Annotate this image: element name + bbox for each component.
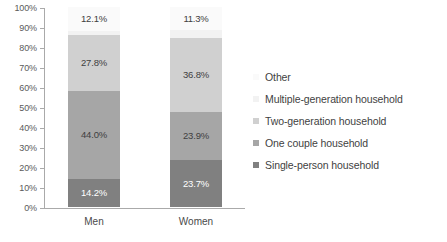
legend-item-label: One couple household xyxy=(265,137,368,149)
y-axis-tick-label: 10% xyxy=(19,183,37,193)
legend: OtherMultiple-generation householdTwo-ge… xyxy=(253,66,443,176)
tick-mark xyxy=(40,88,44,89)
legend-color-swatch xyxy=(253,140,259,146)
bar-women[interactable]: 23.7%23.9%36.8%11.3% xyxy=(170,7,222,207)
y-axis-tick-label: 100% xyxy=(14,3,37,13)
bar-segment[interactable]: 36.8% xyxy=(170,38,222,112)
legend-item-label: Multiple-generation household xyxy=(265,93,403,105)
bar-segment-value-label: 12.1% xyxy=(81,14,107,24)
bar-segment-value-label: 14.2% xyxy=(81,188,107,198)
y-axis-tick-label: 20% xyxy=(19,163,37,173)
legend-item[interactable]: Single-person household xyxy=(253,154,443,176)
bar-segment[interactable]: 11.3% xyxy=(170,7,222,30)
bar-segment[interactable] xyxy=(170,30,222,39)
bar-segment-value-label: 36.8% xyxy=(183,70,209,80)
bar-segment-value-label: 44.0% xyxy=(81,130,107,140)
bar-segment[interactable]: 23.7% xyxy=(170,160,222,207)
tick-mark xyxy=(40,108,44,109)
legend-item-label: Single-person household xyxy=(265,159,379,171)
legend-color-swatch xyxy=(253,118,259,124)
legend-color-swatch xyxy=(253,74,259,80)
tick-mark xyxy=(40,148,44,149)
y-axis-tick-label: 0% xyxy=(24,203,37,213)
x-axis-label-women: Women xyxy=(170,216,222,227)
y-axis-tick-label: 60% xyxy=(19,83,37,93)
legend-item[interactable]: Other xyxy=(253,66,443,88)
bar-segment[interactable]: 12.1% xyxy=(68,7,120,31)
bar-segment-value-label: 11.3% xyxy=(183,14,208,24)
bar-segment[interactable]: 23.9% xyxy=(170,112,222,160)
plot-area: 0%10%20%30%40%50%60%70%80%90%100% 14.2%4… xyxy=(44,8,245,208)
y-axis-tick-label: 80% xyxy=(19,43,37,53)
x-axis-line xyxy=(44,208,245,209)
bar-segment-value-label: 23.7% xyxy=(183,179,209,189)
bar-segment[interactable]: 14.2% xyxy=(68,179,120,207)
legend-item[interactable]: One couple household xyxy=(253,132,443,154)
tick-mark xyxy=(40,168,44,169)
y-axis-tick-label: 70% xyxy=(19,63,37,73)
y-axis-tick-label: 40% xyxy=(19,123,37,133)
y-axis-tick-label: 30% xyxy=(19,143,37,153)
y-axis-tick-label: 90% xyxy=(19,23,37,33)
legend-item[interactable]: Multiple-generation household xyxy=(253,88,443,110)
legend-item-label: Other xyxy=(265,71,291,83)
bar-segment[interactable] xyxy=(68,31,120,35)
legend-color-swatch xyxy=(253,162,259,168)
tick-mark xyxy=(40,68,44,69)
legend-color-swatch xyxy=(253,96,259,102)
bar-men[interactable]: 14.2%44.0%27.8%12.1% xyxy=(68,7,120,207)
y-axis-tick-label: 50% xyxy=(19,103,37,113)
stacked-bar-chart: 0%10%20%30%40%50%60%70%80%90%100% 14.2%4… xyxy=(0,0,447,242)
tick-mark xyxy=(40,128,44,129)
bar-segment-value-label: 23.9% xyxy=(183,131,209,141)
tick-mark xyxy=(40,208,44,209)
y-axis-line xyxy=(44,8,45,208)
bar-segment[interactable]: 44.0% xyxy=(68,91,120,179)
tick-mark xyxy=(40,48,44,49)
tick-mark xyxy=(40,188,44,189)
bar-segment[interactable]: 27.8% xyxy=(68,35,120,91)
legend-item-label: Two-generation household xyxy=(265,115,386,127)
tick-mark xyxy=(40,8,44,9)
bar-segment-value-label: 27.8% xyxy=(81,58,107,68)
x-axis-label-men: Men xyxy=(68,216,120,227)
legend-item[interactable]: Two-generation household xyxy=(253,110,443,132)
tick-mark xyxy=(40,28,44,29)
